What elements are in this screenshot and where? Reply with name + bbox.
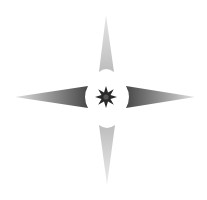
icon-canvas: Four-pointed star with central eight-poi…	[0, 0, 207, 200]
center-sparkle-icon	[95, 86, 117, 108]
top-arm-shape	[99, 15, 114, 72]
left-arm-shape	[15, 86, 88, 108]
bottom-arm-shape	[99, 125, 115, 185]
right-arm-shape	[126, 86, 195, 108]
star-compass-icon	[0, 0, 207, 200]
